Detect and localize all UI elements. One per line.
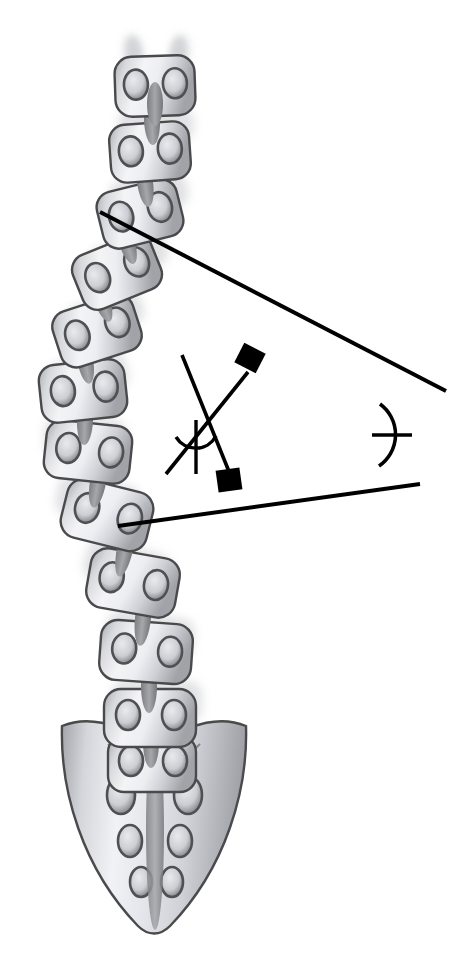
- lower-endplate-line: [118, 484, 420, 526]
- right-angle-marker-upper: [234, 343, 265, 373]
- foramen-right: [157, 636, 183, 668]
- vertebral-column: [37, 35, 196, 792]
- sacral-foramen-right-2: [168, 825, 192, 857]
- foramen-left: [118, 136, 144, 168]
- foramen-left: [111, 633, 137, 665]
- sacral-foramen-right-3: [161, 867, 183, 897]
- upper-endplate-line: [100, 212, 446, 391]
- upper-perpendicular-line: [182, 355, 232, 479]
- foramen-left: [123, 69, 148, 100]
- foramen-right: [162, 700, 186, 730]
- foramen-left: [116, 700, 140, 730]
- right-angle-marker-lower: [216, 467, 243, 492]
- lower-perpendicular-line: [166, 372, 248, 474]
- vertebra-8: [57, 475, 157, 555]
- spinous-process-v1: [147, 82, 163, 126]
- vertebra-9: [83, 546, 182, 621]
- foramen-right: [163, 746, 187, 776]
- sacral-foramen-left-2: [118, 825, 142, 857]
- foramen-right: [162, 68, 187, 99]
- foramen-left: [119, 746, 143, 776]
- foramen-right: [157, 133, 183, 165]
- cobb-angle-figure: [0, 0, 468, 967]
- spine-illustration-svg: [0, 0, 468, 967]
- right-angle-markers: [216, 343, 266, 493]
